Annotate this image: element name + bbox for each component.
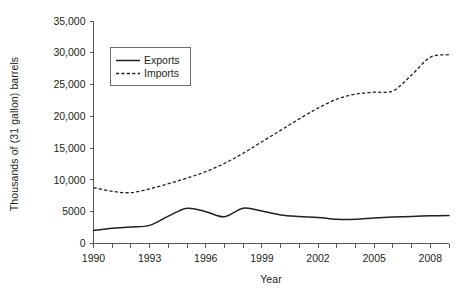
- y-tick-label: 0: [80, 237, 86, 249]
- y-axis-ticks: 0500010,00015,00020,00025,00030,00035,00…: [53, 15, 93, 250]
- y-tick-label: 20,000: [53, 110, 85, 122]
- x-tick-label: 1996: [194, 252, 218, 264]
- legend-label-imports: Imports: [144, 67, 179, 79]
- chart-canvas: Thousands of (31 gallon) barrels 0500010…: [0, 0, 462, 298]
- y-tick-label: 5000: [62, 205, 86, 217]
- x-axis-title-text: Year: [260, 273, 282, 285]
- y-tick-label: 15,000: [53, 142, 85, 154]
- x-tick-label: 1990: [82, 252, 106, 264]
- x-tick-label: 1999: [250, 252, 274, 264]
- y-tick-label: 30,000: [53, 46, 85, 58]
- x-tick-label: 2002: [306, 252, 330, 264]
- y-tick-label: 10,000: [53, 174, 85, 186]
- y-axis-title: Thousands of (31 gallon) barrels: [8, 57, 20, 211]
- x-tick-label: 1993: [138, 252, 162, 264]
- y-axis-title-text: Thousands of (31 gallon) barrels: [8, 57, 20, 211]
- x-tick-label: 2005: [362, 252, 386, 264]
- exports-line: [94, 208, 450, 230]
- y-tick-label: 25,000: [53, 78, 85, 90]
- x-axis-ticks: 1990199319961999200220052008: [82, 244, 449, 264]
- x-tick-label: 2008: [419, 252, 443, 264]
- legend-label-exports: Exports: [144, 54, 180, 66]
- chart-legend: Exports Imports: [111, 48, 191, 86]
- line-chart-figure: Thousands of (31 gallon) barrels 0500010…: [0, 0, 462, 298]
- y-tick-label: 35,000: [53, 15, 85, 27]
